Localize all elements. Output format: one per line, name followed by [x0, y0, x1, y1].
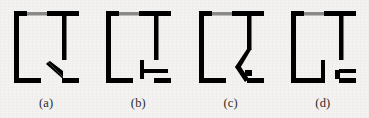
window-segment [212, 12, 232, 16]
wall-left [199, 11, 204, 83]
wall-inner-jog [321, 60, 325, 80]
floorplan-panel-a: (a) [0, 0, 92, 118]
window-segment [304, 12, 324, 16]
wall-interior-right [247, 11, 252, 50]
wall-bottom-right [62, 78, 79, 83]
wall-bottom-left [106, 78, 133, 83]
floorplan-panel-b: (b) [92, 0, 184, 118]
floorplan-diagram-c [185, 0, 277, 96]
floorplan-diagram-b [92, 0, 184, 96]
wall-interior-right [154, 11, 159, 60]
wall-bottom-left [14, 78, 41, 83]
door-leaf-horizontal-hinged-icon [144, 69, 168, 73]
wall-interior-right [339, 11, 344, 60]
wall-bottom-left [199, 78, 226, 83]
floorplan-panel-d: (d) [277, 0, 369, 118]
wall-bottom-right [247, 78, 264, 83]
wall-interior-right [62, 11, 67, 60]
wall-left [14, 11, 19, 83]
door-leaf-triangular-icon [48, 61, 63, 77]
wall-bottom-right [339, 78, 356, 83]
wall-left [106, 11, 111, 83]
wall-bottom-right [154, 78, 171, 83]
panel-caption-a: (a) [0, 96, 92, 111]
door-leaf-flat-icon [339, 69, 356, 73]
wall-left [291, 11, 296, 83]
door-hinge-jamb [140, 60, 144, 79]
floorplan-diagram-a [0, 0, 92, 96]
window-segment [27, 12, 47, 16]
panel-caption-c: (c) [185, 96, 277, 111]
floorplan-panel-row: (a) (b) [0, 0, 369, 118]
panel-caption-b: (b) [92, 96, 184, 111]
floorplan-panel-c: (c) [185, 0, 277, 118]
floorplan-diagram-d [277, 0, 369, 96]
door-latch-block [245, 70, 252, 76]
panel-caption-d: (d) [277, 96, 369, 111]
wall-bottom-left [291, 78, 325, 83]
window-segment [119, 12, 139, 16]
